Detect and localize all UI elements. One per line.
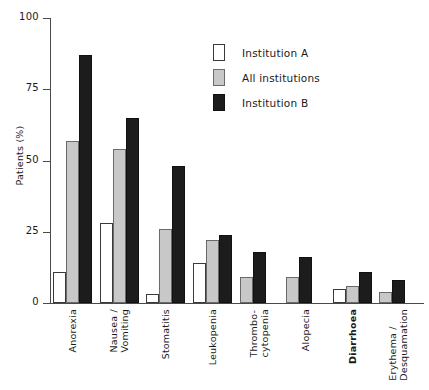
x-axis-line	[50, 303, 424, 304]
x-axis-label-line: Desquamation	[398, 309, 409, 381]
x-axis-label-text: Stomatitis	[160, 309, 171, 359]
bar	[113, 149, 126, 303]
bar	[253, 252, 266, 303]
legend-item-institution-a: Institution A	[213, 40, 320, 65]
bar	[359, 272, 372, 303]
bar	[392, 280, 405, 303]
x-axis-label-text: Anorexia	[67, 309, 78, 352]
black-square-icon	[213, 94, 225, 111]
x-axis-label-line: Diarrhoea	[346, 309, 357, 364]
x-axis-label-line: Leukopenia	[206, 309, 217, 365]
bar-group	[379, 18, 405, 303]
bar	[100, 223, 113, 303]
legend: Institution A All institutions Instituti…	[213, 40, 320, 115]
bar-group	[53, 18, 92, 303]
bar	[299, 257, 312, 303]
bar-group	[333, 18, 372, 303]
y-axis-tick-mark	[43, 303, 50, 304]
y-axis-tick-mark	[43, 89, 50, 90]
bar	[333, 289, 346, 303]
bar-chart: Patients (%) 0255075100 AnorexiaNausea /…	[0, 0, 429, 390]
x-axis-label-line: Anorexia	[67, 309, 78, 352]
bar	[240, 277, 253, 303]
y-axis-tick-label: 25	[26, 225, 39, 236]
legend-label: Institution B	[242, 97, 308, 109]
y-axis-tick-label: 0	[32, 296, 39, 307]
bar	[53, 272, 66, 303]
y-axis-tick-label: 50	[26, 154, 39, 165]
white-square-icon	[213, 44, 225, 61]
bar	[346, 286, 359, 303]
x-axis-label-line: cytopenia	[259, 309, 270, 358]
x-axis-label-text: Thrombo-cytopenia	[248, 309, 270, 358]
y-axis-tick-label: 100	[19, 11, 39, 22]
y-axis-tick-label: 75	[26, 82, 39, 93]
x-axis-label-line: Thrombo-	[248, 309, 259, 358]
legend-item-all-institutions: All institutions	[213, 65, 320, 90]
x-axis-label-text: Alopecia	[300, 309, 311, 351]
x-axis-label-line: Stomatitis	[160, 309, 171, 359]
bar	[159, 229, 172, 303]
bar	[146, 294, 159, 303]
bar	[172, 166, 185, 303]
x-axis-label-line: Nausea /	[108, 309, 119, 352]
x-axis-label-text: Diarrhoea	[346, 309, 357, 364]
bar	[79, 55, 92, 303]
x-axis-label-text: Nausea /Vomiting	[108, 309, 130, 352]
bar-group	[146, 18, 185, 303]
x-axis-label-line: Erythema /	[387, 309, 398, 381]
bar	[206, 240, 219, 303]
y-axis-title: Patients (%)	[14, 111, 25, 201]
y-axis-tick-mark	[43, 18, 50, 19]
bar	[286, 277, 299, 303]
x-axis-label-text: Leukopenia	[206, 309, 217, 365]
legend-label: All institutions	[242, 72, 320, 84]
bar	[66, 141, 79, 303]
legend-item-institution-b: Institution B	[213, 90, 320, 115]
legend-label: Institution A	[242, 47, 308, 59]
bar-group	[100, 18, 139, 303]
y-axis-tick-mark	[43, 161, 50, 162]
bar	[379, 292, 392, 303]
gray-square-icon	[213, 69, 225, 86]
bar	[193, 263, 206, 303]
x-axis-label-text: Erythema /Desquamation	[387, 309, 409, 381]
x-axis-label-line: Vomiting	[119, 309, 130, 352]
y-axis-tick-mark	[43, 232, 50, 233]
bar	[219, 235, 232, 303]
bar	[126, 118, 139, 303]
x-axis-label-line: Alopecia	[300, 309, 311, 351]
